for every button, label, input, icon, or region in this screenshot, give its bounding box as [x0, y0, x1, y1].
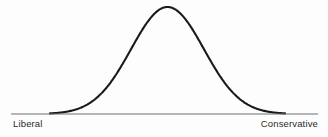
- bell-curve-line: [50, 7, 285, 113]
- bell-curve-plot: [0, 0, 328, 137]
- axis-label-conservative: Conservative: [261, 118, 318, 130]
- bell-curve-figure: Liberal Conservative: [0, 0, 328, 137]
- curve-group: [50, 7, 285, 113]
- axis-label-liberal: Liberal: [13, 118, 43, 130]
